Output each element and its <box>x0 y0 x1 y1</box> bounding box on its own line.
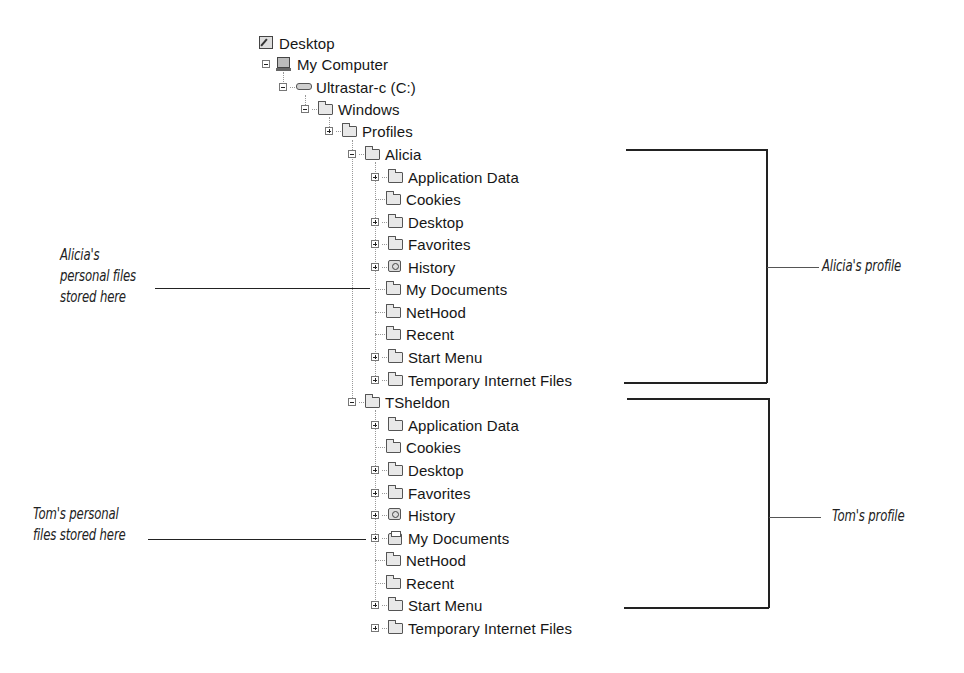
expand-icon[interactable] <box>371 601 379 609</box>
expand-icon[interactable] <box>371 173 379 181</box>
tree-node-alicia-desktop[interactable]: Desktop <box>371 212 464 232</box>
bracket-top <box>627 398 769 400</box>
folder-icon <box>388 621 404 635</box>
node-label: Desktop <box>408 462 464 479</box>
tree-node-alicia-temporary-internet-files[interactable]: Temporary Internet Files <box>371 370 572 390</box>
folder-icon <box>318 102 334 116</box>
tree-node-alicia-favorites[interactable]: Favorites <box>371 234 471 254</box>
collapse-icon[interactable] <box>262 60 270 68</box>
my-documents-icon <box>388 531 404 545</box>
tree-node-tsheldon-application-data[interactable]: Application Data <box>371 415 519 435</box>
tree-node-tsheldon[interactable]: TSheldon <box>348 392 450 412</box>
collapse-icon[interactable] <box>348 398 356 406</box>
tree-node-desktop[interactable]: Desktop <box>259 33 335 53</box>
node-label: Start Menu <box>408 349 482 366</box>
desktop-icon <box>259 36 275 50</box>
tree-node-drive-c[interactable]: Ultrastar-c (C:) <box>279 77 416 97</box>
expand-icon[interactable] <box>371 421 379 429</box>
callout-tom-profile: Tom's profile <box>832 506 904 527</box>
tree-node-windows[interactable]: Windows <box>301 99 400 119</box>
folder-icon <box>365 395 381 409</box>
expand-icon[interactable] <box>371 218 379 226</box>
bracket-top <box>626 149 767 151</box>
tree-connector <box>352 140 353 402</box>
collapse-icon[interactable] <box>348 150 356 158</box>
tree-node-my-computer[interactable]: My Computer <box>262 54 388 74</box>
tree-node-tsheldon-recent[interactable]: Recent <box>375 573 454 593</box>
bracket-bottom <box>624 382 767 384</box>
folder-icon <box>386 553 402 567</box>
node-label: My Documents <box>408 530 509 547</box>
tree-node-tsheldon-favorites[interactable]: Favorites <box>371 483 471 503</box>
tree-node-alicia-cookies[interactable]: Cookies <box>375 189 461 209</box>
folder-icon <box>388 170 404 184</box>
tree-node-alicia-history[interactable]: History <box>371 257 455 277</box>
node-label: TSheldon <box>385 394 450 411</box>
node-label: Recent <box>406 326 454 343</box>
node-label: Cookies <box>406 191 461 208</box>
history-folder-icon <box>388 260 404 274</box>
node-label: NetHood <box>406 304 466 321</box>
tree-node-alicia-recent[interactable]: Recent <box>375 324 454 344</box>
folder-icon <box>388 463 404 477</box>
bracket-side <box>766 149 768 383</box>
tree-node-tsheldon-cookies[interactable]: Cookies <box>375 437 461 457</box>
node-label: My Documents <box>406 281 507 298</box>
node-label: History <box>408 259 455 276</box>
expand-icon[interactable] <box>371 624 379 632</box>
folder-icon <box>386 282 402 296</box>
folder-icon <box>342 124 358 138</box>
folder-icon <box>365 147 381 161</box>
folder-icon <box>386 305 402 319</box>
bracket-leader <box>767 267 819 268</box>
callout-tom-personal-files: Tom's personal files stored here <box>33 504 126 546</box>
tree-node-tsheldon-nethood[interactable]: NetHood <box>375 550 466 570</box>
collapse-icon[interactable] <box>301 105 309 113</box>
tree-node-tsheldon-temporary-internet-files[interactable]: Temporary Internet Files <box>371 618 572 638</box>
tree-node-profiles[interactable]: Profiles <box>325 121 413 141</box>
node-label: NetHood <box>406 552 466 569</box>
expand-icon[interactable] <box>371 534 379 542</box>
expand-icon[interactable] <box>371 489 379 497</box>
collapse-icon[interactable] <box>279 83 287 91</box>
node-label: Profiles <box>362 123 413 140</box>
bracket-side <box>768 398 770 608</box>
node-label: Favorites <box>408 485 471 502</box>
tree-node-alicia-start-menu[interactable]: Start Menu <box>371 347 482 367</box>
node-label: My Computer <box>297 56 388 73</box>
tree-node-alicia[interactable]: Alicia <box>348 144 421 164</box>
expand-icon[interactable] <box>371 263 379 271</box>
callout-alicia-profile: Alicia's profile <box>822 256 901 277</box>
expand-icon[interactable] <box>371 466 379 474</box>
tree-node-alicia-application-data[interactable]: Application Data <box>371 167 519 187</box>
tree-node-tsheldon-history[interactable]: History <box>371 505 455 525</box>
folder-icon <box>386 440 402 454</box>
tree-node-tsheldon-my-documents[interactable]: My Documents <box>371 528 509 548</box>
callout-alicia-personal-files: Alicia's personal files stored here <box>60 245 136 308</box>
folder-icon <box>388 418 404 432</box>
tree-node-alicia-nethood[interactable]: NetHood <box>375 302 466 322</box>
history-folder-icon <box>388 508 404 522</box>
node-label: Alicia <box>385 146 421 163</box>
expand-icon[interactable] <box>371 376 379 384</box>
expand-icon[interactable] <box>371 240 379 248</box>
node-label: Favorites <box>408 236 471 253</box>
expand-icon[interactable] <box>371 353 379 361</box>
node-label: Desktop <box>408 214 464 231</box>
folder-icon <box>388 598 404 612</box>
folder-icon <box>386 327 402 341</box>
tree-node-tsheldon-desktop[interactable]: Desktop <box>371 460 464 480</box>
node-label: Temporary Internet Files <box>408 372 572 389</box>
expand-icon[interactable] <box>371 511 379 519</box>
callout-leader-line <box>148 539 366 540</box>
expand-icon[interactable] <box>325 127 333 135</box>
node-label: Application Data <box>408 169 519 186</box>
callout-leader-line <box>155 288 370 289</box>
hard-drive-icon <box>296 80 312 94</box>
tree-node-tsheldon-start-menu[interactable]: Start Menu <box>371 595 482 615</box>
tree-node-alicia-my-documents[interactable]: My Documents <box>375 279 507 299</box>
computer-icon <box>277 57 293 71</box>
node-label: Temporary Internet Files <box>408 620 572 637</box>
node-label: Recent <box>406 575 454 592</box>
node-label: Cookies <box>406 439 461 456</box>
